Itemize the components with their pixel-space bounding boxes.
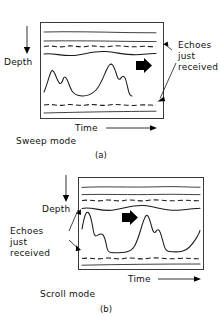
panel-a-mode-label: Sweep mode <box>16 136 77 146</box>
panel-b-echo-annotation: Echoes just received <box>9 209 81 258</box>
panel-a-caption: (a) <box>95 150 107 160</box>
panel-a-traces <box>44 32 156 113</box>
panel-a-depth-axis: Depth <box>4 26 32 67</box>
annotation-line-3: received <box>10 248 50 258</box>
trace-mid-dashed <box>82 200 200 201</box>
panel-b-depth-label: Depth <box>42 204 70 214</box>
panel-b-display-frame <box>79 178 204 270</box>
panel-a-echo-annotation: Echoes just received <box>158 40 219 102</box>
annotation-line-3: received <box>178 62 218 72</box>
panel-b-time-axis: Time <box>127 274 201 284</box>
trace-echo-return <box>82 212 200 253</box>
figure-container: Depth Time Echoes just received Sweep mo… <box>0 0 220 318</box>
trace-floor <box>82 264 200 265</box>
panel-a-time-label: Time <box>74 123 98 133</box>
annotation-line-2: just <box>9 237 27 247</box>
trace-echo-return <box>44 64 132 96</box>
panel-b-time-label: Time <box>127 274 151 284</box>
solid-right-arrow-icon <box>136 58 152 73</box>
depth-arrow-head-icon <box>24 47 30 54</box>
annotation-leader-lower <box>160 63 176 99</box>
trace-bottom-contour <box>82 205 200 210</box>
panel-b-mode-label: Scroll mode <box>40 289 96 299</box>
trace-surface-1 <box>82 187 200 188</box>
time-arrow-head-icon <box>150 125 157 131</box>
annotation-line-1: Echoes <box>178 40 211 50</box>
panel-a-depth-label: Depth <box>4 57 32 67</box>
panel-b-traces <box>82 187 200 266</box>
figure-svg: Depth Time Echoes just received Sweep mo… <box>0 0 220 318</box>
annotation-line-2: just <box>177 51 195 61</box>
panel-b: Depth Echoes just received Time Scroll m… <box>9 175 204 314</box>
depth-arrow-head-icon <box>63 195 69 202</box>
panel-a-sweep-marker <box>136 58 152 73</box>
trace-mid-dashed <box>44 46 156 47</box>
trace-surface-2 <box>44 41 156 42</box>
trace-lower-dashed <box>82 258 200 259</box>
panel-b-scroll-marker <box>122 210 138 225</box>
panel-b-caption: (b) <box>100 304 112 314</box>
annotation-line-1: Echoes <box>10 226 43 236</box>
solid-right-arrow-icon <box>122 210 138 225</box>
trace-bottom-contour <box>44 51 156 55</box>
panel-b-depth-axis: Depth <box>42 175 70 214</box>
annotation-leader-lower-head-icon <box>158 96 166 101</box>
trace-floor <box>44 111 156 113</box>
time-arrow-head-icon <box>194 276 201 282</box>
trace-surface-1 <box>44 32 156 33</box>
panel-a-time-axis: Time <box>74 123 157 133</box>
panel-a: Depth Time Echoes just received Sweep mo… <box>4 23 218 161</box>
trace-lower-dashed <box>44 104 156 105</box>
